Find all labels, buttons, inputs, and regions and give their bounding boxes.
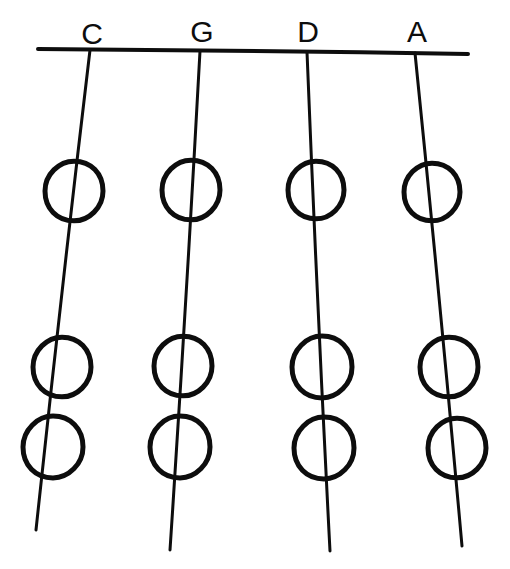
- note-circle-g-3[interactable]: [150, 416, 210, 478]
- string-label-d: D: [297, 15, 319, 48]
- circles-d: [288, 161, 354, 479]
- circles-a: [404, 163, 486, 478]
- string-label-a: A: [407, 15, 427, 48]
- fingering-diagram: CGDA: [0, 0, 510, 569]
- note-circle-c-2[interactable]: [33, 337, 91, 397]
- string-label-c: C: [81, 17, 103, 50]
- note-circle-c-3[interactable]: [23, 416, 83, 478]
- diagram-canvas: CGDA: [0, 0, 510, 569]
- string-label-g: G: [190, 15, 213, 48]
- note-circle-d-1[interactable]: [288, 161, 344, 219]
- circles-c: [23, 161, 103, 478]
- note-circle-a-3[interactable]: [428, 418, 486, 478]
